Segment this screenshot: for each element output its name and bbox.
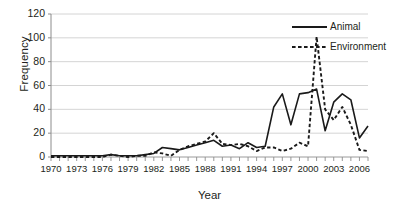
- legend-swatches: [292, 27, 327, 47]
- data-series-layer: [51, 37, 368, 157]
- axis-lines: [48, 14, 51, 157]
- frequency-by-year-line-chart: Frequency Year 020406080100120 197019731…: [0, 0, 409, 211]
- legend-label-animal: Animal: [330, 21, 361, 32]
- gridlines: [51, 14, 368, 157]
- series-line-animal: [51, 89, 368, 156]
- legend-label-environment: Environment: [330, 41, 386, 52]
- series-line-environment: [51, 37, 368, 157]
